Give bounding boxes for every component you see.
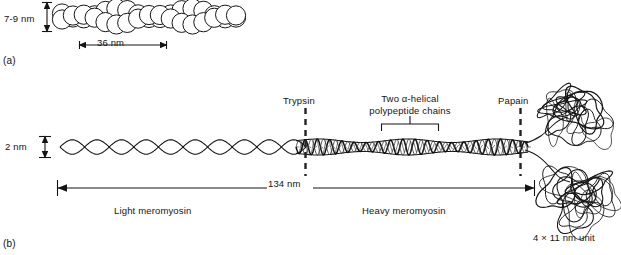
heavy-meromyosin-label: Heavy meromyosin — [362, 205, 446, 217]
coiled-coil-callout-line-1: Two α-helical — [352, 93, 468, 105]
myosin-thickness-caliper — [39, 136, 51, 158]
myosin-thickness-label: 2 nm — [5, 141, 27, 153]
papain-label: Papain — [498, 95, 528, 107]
myosin-tail-light-meromyosin — [60, 140, 306, 154]
figure-canvas — [0, 0, 621, 255]
myosin-tail-heavy-meromyosin — [296, 139, 531, 155]
coiled-coil-callout-bracket — [381, 116, 439, 131]
myosin-head-lower — [536, 166, 621, 239]
trypsin-label: Trypsin — [283, 95, 315, 107]
light-meromyosin-label: Light meromyosin — [114, 205, 191, 217]
panel-a-label: (a) — [3, 55, 16, 67]
myosin-head-upper — [537, 83, 613, 149]
coiled-coil-callout-line-2: polypeptide chains — [352, 105, 468, 117]
coiled-coil-callout-label: Two α-helical polypeptide chains — [352, 93, 468, 116]
actin-filament — [52, 0, 245, 34]
panel-b-label: (b) — [3, 238, 16, 250]
actin-diameter-label: 7-9 nm — [4, 13, 34, 25]
figure-actin-myosin: 7-9 nm 36 nm (a) 2 nm Trypsin Papain Two… — [0, 0, 621, 255]
head-unit-label: 4 × 11 nm unit — [533, 232, 595, 244]
actin-repeat-label: 36 nm — [97, 37, 124, 49]
actin-diameter-caliper — [42, 2, 52, 32]
myosin-length-label: 134 nm — [268, 178, 301, 190]
